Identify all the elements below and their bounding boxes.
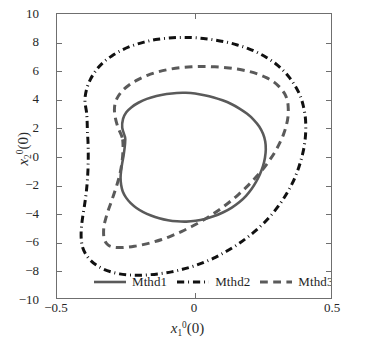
legend-label: Mthd2	[215, 274, 250, 290]
y-axis-title: x20(0)	[15, 109, 33, 189]
x-axis-title-arg: (0)	[187, 320, 205, 336]
x-tick-label: 0.5	[302, 301, 362, 314]
y-tick-mark-right	[326, 128, 331, 129]
y-tick-mark	[57, 271, 62, 272]
y-tick-mark	[57, 128, 62, 129]
y-tick-label: 6	[33, 64, 40, 77]
y-tick-mark-right	[326, 271, 331, 272]
y-tick-mark	[57, 157, 62, 158]
y-tick-label: −6	[25, 235, 39, 248]
y-tick-mark-right	[326, 214, 331, 215]
y-tick-label: 4	[33, 92, 40, 105]
figure-canvas: −10−8−6−4−20246810 −0.500.5 Mthd1Mthd2Mt…	[0, 0, 375, 348]
y-tick-mark	[57, 243, 62, 244]
legend-label: Mthd1	[132, 274, 167, 290]
y-tick-label: 0	[33, 150, 40, 163]
y-tick-label: −4	[25, 207, 39, 220]
y-tick-mark-right	[326, 157, 331, 158]
y-tick-mark	[57, 43, 62, 44]
legend-line-sample-mthd1	[93, 276, 127, 288]
y-tick-label: 10	[26, 7, 39, 20]
y-tick-label: 8	[33, 35, 40, 48]
legend-entry-mthd3[interactable]: Mthd3	[259, 274, 332, 290]
x-tick-label: 0	[164, 301, 224, 314]
y-tick-mark-right	[326, 71, 331, 72]
x-tick-label: −0.5	[26, 301, 86, 314]
y-tick-mark	[57, 100, 62, 101]
y-axis-title-sub: 2	[23, 154, 33, 159]
y-tick-mark-right	[326, 243, 331, 244]
x-tick-mark-top	[195, 14, 196, 19]
y-tick-mark-right	[326, 43, 331, 44]
x-tick-mark	[195, 293, 196, 298]
y-tick-mark	[57, 71, 62, 72]
plot-area: Mthd1Mthd2Mthd3	[56, 13, 332, 299]
curves-svg	[57, 14, 331, 298]
x-axis-title: x10(0)	[0, 320, 375, 338]
legend-entry-mthd2[interactable]: Mthd2	[176, 274, 250, 290]
y-tick-label: −8	[25, 264, 39, 277]
legend-line-sample-mthd2	[176, 276, 210, 288]
y-tick-mark-right	[326, 186, 331, 187]
legend-label: Mthd3	[298, 274, 332, 290]
y-tick-mark	[57, 186, 62, 187]
series-curve-mthd1	[121, 93, 266, 222]
y-axis-title-sup: 0	[15, 150, 25, 155]
y-axis-title-arg: (0)	[15, 132, 31, 150]
y-tick-label: 2	[33, 121, 40, 134]
legend-entry-mthd1[interactable]: Mthd1	[93, 274, 167, 290]
chart-legend: Mthd1Mthd2Mthd3	[93, 274, 332, 290]
y-tick-mark	[57, 214, 62, 215]
legend-line-sample-mthd3	[259, 276, 293, 288]
y-axis-title-var: x	[15, 159, 31, 166]
y-tick-mark-right	[326, 100, 331, 101]
